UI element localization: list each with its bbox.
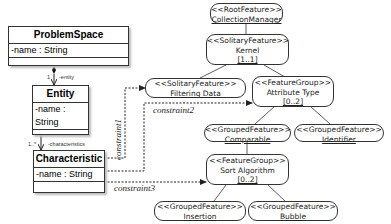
- constraint1-label: constraint1: [113, 119, 123, 160]
- feature-name: Insertion: [155, 212, 245, 222]
- feature-kernel[interactable]: <<SolitaryFeature>> Kernel [1..1]: [206, 34, 289, 65]
- class-name: Entity: [33, 86, 88, 103]
- constraint1-connector: [104, 88, 145, 158]
- feature-name: Comparable: [205, 135, 290, 145]
- feature-name: CollectionManager: [211, 15, 282, 25]
- feature-filtering-data[interactable]: <<SolitaryFeature>> Filtering Data: [145, 78, 246, 98]
- feature-sort-algorithm[interactable]: <<FeatureGroup>> Sort Algorithm [0..2]: [206, 154, 289, 185]
- constraint2-label: constraint2: [153, 105, 194, 115]
- class-attribute: -name : String: [33, 103, 88, 130]
- cardinality: [0..2]: [207, 175, 288, 185]
- feature-name: Identifier: [295, 135, 383, 145]
- feature-attribute-type[interactable]: <<FeatureGroup>> Attribute Type [0..2]: [252, 76, 334, 107]
- stereotype: <<GroupedFeature>>: [205, 125, 290, 135]
- stereotype: <<SolitaryFeature>>: [146, 79, 245, 89]
- feature-comparable[interactable]: <<GroupedFeature>> Comparable: [204, 124, 291, 142]
- stereotype: <<RootFeature>>: [211, 5, 282, 15]
- stereotype: <<GroupedFeature>>: [295, 125, 383, 135]
- feature-identifier[interactable]: <<GroupedFeature>> Identifier: [294, 124, 384, 142]
- feature-name: Bubble: [249, 212, 337, 222]
- stereotype: <<FeatureGroup>>: [253, 78, 333, 88]
- feature-name: Filtering Data: [146, 89, 245, 99]
- class-entity[interactable]: Entity -name : String: [32, 85, 89, 135]
- feature-root-collection-manager[interactable]: <<RootFeature>> CollectionManager: [210, 3, 283, 24]
- stereotype: <<SolitaryFeature>>: [207, 36, 288, 46]
- feature-insertion[interactable]: <<GroupedFeature>> Insertion: [154, 201, 246, 221]
- class-problem-space[interactable]: ProblemSpace -name : String: [8, 26, 129, 66]
- class-operations: [9, 58, 128, 65]
- composition-ps-entity: [52, 66, 56, 85]
- multiplicity-characteristics: 1..*: [28, 141, 36, 147]
- stereotype: <<GroupedFeature>>: [249, 202, 337, 212]
- multiplicity-entity: 1: [47, 74, 50, 80]
- class-attribute: -name : String: [34, 168, 104, 182]
- feature-name: Kernel: [207, 46, 288, 56]
- class-characteristic[interactable]: Characteristic -name : String: [33, 150, 105, 193]
- feature-name: Attribute Type: [253, 88, 333, 98]
- class-name: Characteristic: [34, 151, 104, 168]
- stereotype: <<GroupedFeature>>: [155, 202, 245, 212]
- feature-name: Sort Algorithm: [207, 166, 288, 176]
- stereotype: <<FeatureGroup>>: [207, 156, 288, 166]
- cardinality: [1..1]: [207, 55, 288, 65]
- class-attribute: -name : String: [9, 44, 128, 58]
- class-operations: [34, 182, 104, 192]
- class-name: ProblemSpace: [9, 27, 128, 44]
- cardinality: [0..2]: [253, 97, 333, 107]
- class-operations: [33, 130, 88, 134]
- constraint3-label: constraint3: [114, 183, 155, 193]
- role-characteristics: -characteristics: [48, 141, 85, 147]
- feature-bubble[interactable]: <<GroupedFeature>> Bubble: [248, 201, 338, 221]
- role-entity: -entity: [59, 74, 74, 80]
